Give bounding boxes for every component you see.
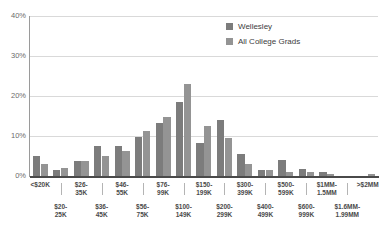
bar [184,84,191,176]
legend-item-wellesley: Wellesley [226,20,300,32]
bar-group [91,16,111,176]
bar [237,154,244,176]
bar [81,161,88,176]
x-axis-line [30,176,379,178]
bar [122,151,129,176]
y-axis-tick-label: 20% [0,92,26,100]
x-axis-tick-label: $1.6MM-1.99MM [323,203,371,218]
bar-group [194,16,214,176]
bar [217,120,224,176]
y-axis-tick-label: 40% [0,12,26,20]
bar-group [132,16,152,176]
bar [33,156,40,176]
bar-group [337,16,357,176]
bar-group [358,16,378,176]
bar [196,143,203,176]
bar [163,117,170,176]
bar [94,146,101,176]
plot-area [30,16,378,176]
legend-label: All College Grads [238,37,300,46]
x-axis-labels: <$20K$20-25K$26-35K$36-45K$46-55K$56-75K… [30,181,378,227]
bar-group [50,16,70,176]
bar-groups [30,16,378,176]
y-axis-tick-label: 10% [0,132,26,140]
bar [41,164,48,176]
bar [74,161,81,176]
legend-swatch-icon [226,38,233,45]
bar [176,102,183,176]
legend-item-all-college-grads: All College Grads [226,35,300,47]
bar-group [71,16,91,176]
bar [135,137,142,176]
bar [156,123,163,176]
bar-group [317,16,337,176]
legend: Wellesley All College Grads [226,20,300,50]
bar [299,169,306,176]
bar [102,156,109,176]
legend-label: Wellesley [238,22,272,31]
bar-group [30,16,50,176]
bar [61,168,68,176]
bar [225,138,232,176]
y-axis-tick-label: 30% [0,52,26,60]
bar-group [112,16,132,176]
bar [278,160,285,176]
bar [143,131,150,176]
legend-swatch-icon [226,23,233,30]
bar-group [173,16,193,176]
bar [204,126,211,176]
y-axis-tick-label: 0% [0,172,26,180]
bar-group [153,16,173,176]
bar-chart: 40%30%20%10%0% Wellesley All College Gra… [0,0,391,227]
bar [115,146,122,176]
bar [245,164,252,176]
x-axis-tick-label: >$2MM [344,181,391,189]
